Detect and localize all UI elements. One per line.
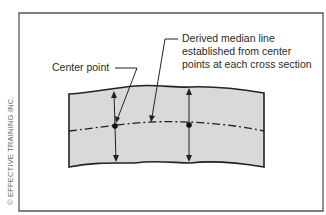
median-line-label-line1: Derived median line <box>182 33 275 45</box>
median-line-label-line2: established from center <box>182 46 291 58</box>
diagram-canvas <box>0 0 326 215</box>
copyright-notice: © EFFECTIVE TRAINING INC. <box>6 96 15 205</box>
median-line-label-line3: points at each cross section <box>182 59 312 71</box>
center-point-label: Center point <box>52 62 109 74</box>
